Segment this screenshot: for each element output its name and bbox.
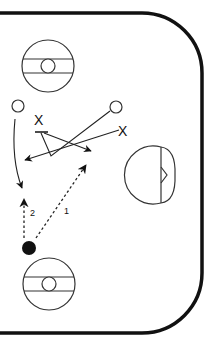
faceoff-circle-bottom	[23, 258, 75, 310]
defender-x1: X	[34, 112, 44, 128]
skate-path-o1	[14, 119, 22, 188]
goal-crease	[124, 146, 175, 204]
defender-arrow-left	[25, 130, 119, 160]
defender-x2: X	[118, 123, 128, 139]
defender-arrow-right	[44, 133, 91, 151]
puck-carrier-icon	[22, 241, 36, 255]
rink-boards	[0, 13, 202, 333]
pass-label-2: 2	[30, 208, 35, 218]
player-o2-icon	[110, 101, 122, 113]
faceoff-circle-top	[22, 40, 74, 92]
hockey-diagram: X X 2 1	[0, 0, 217, 344]
pass-label-1: 1	[64, 206, 69, 216]
defender-route	[41, 111, 110, 156]
pass-option-1	[36, 165, 86, 238]
player-o1-icon	[12, 100, 24, 112]
